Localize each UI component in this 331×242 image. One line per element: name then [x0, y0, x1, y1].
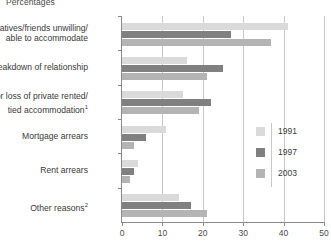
category-label: End or loss of private rented/tied accom…: [0, 91, 88, 115]
category-label: Breakdown of relationship: [0, 62, 88, 73]
bar-1991: [122, 194, 179, 201]
category-group: Other reasons2: [0, 188, 331, 222]
y-category-tick: [118, 153, 122, 154]
x-tick-10: [162, 222, 163, 226]
bar-2003: [122, 73, 207, 80]
bar-1997: [122, 134, 146, 141]
bar-2003: [122, 107, 199, 114]
x-tick-0: [122, 222, 123, 226]
category-label: Rent arrears: [0, 165, 88, 176]
x-tick-label-0: 0: [110, 228, 134, 238]
category-label: Other reasons2: [0, 200, 88, 213]
x-tick-label-50: 50: [312, 228, 331, 238]
bar-1991: [122, 57, 187, 64]
x-tick-label-30: 30: [231, 228, 255, 238]
category-group: End or loss of private rented/tied accom…: [0, 85, 331, 119]
y-category-tick: [118, 188, 122, 189]
bar-2003: [122, 39, 271, 46]
category-group: Relatives/friends unwilling/able to acco…: [0, 16, 331, 50]
category-group: Mortgage arrears: [0, 119, 331, 153]
bar-2003: [122, 210, 207, 217]
x-tick-label-20: 20: [191, 228, 215, 238]
category-label: Mortgage arrears: [0, 131, 88, 142]
bar-1991: [122, 91, 183, 98]
x-tick-label-10: 10: [150, 228, 174, 238]
bar-1997: [122, 202, 191, 209]
bar-1997: [122, 31, 231, 38]
y-category-tick: [118, 119, 122, 120]
y-category-tick: [118, 16, 122, 17]
units-label: Percentages: [6, 0, 55, 7]
x-tick-40: [284, 222, 285, 226]
y-category-tick: [118, 50, 122, 51]
bar-1991: [122, 126, 166, 133]
x-tick-50: [324, 222, 325, 226]
bar-1997: [122, 168, 134, 175]
bar-1997: [122, 65, 223, 72]
category-label: Relatives/friends unwilling/able to acco…: [0, 23, 88, 44]
bar-1991: [122, 23, 288, 30]
bar-1991: [122, 160, 138, 167]
x-axis-line: [122, 222, 325, 223]
x-tick-20: [203, 222, 204, 226]
category-group: Breakdown of relationship: [0, 50, 331, 84]
bar-2003: [122, 142, 134, 149]
x-tick-label-40: 40: [272, 228, 296, 238]
bar-chart: Percentages 1991 1997 2003 01020304050Re…: [0, 0, 331, 242]
x-tick-30: [243, 222, 244, 226]
y-category-tick: [118, 85, 122, 86]
bar-1997: [122, 99, 211, 106]
category-group: Rent arrears: [0, 153, 331, 187]
bar-2003: [122, 176, 130, 183]
